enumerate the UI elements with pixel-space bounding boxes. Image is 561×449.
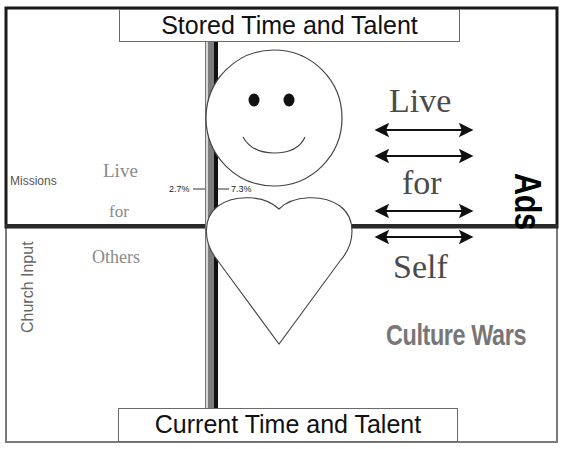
ads-label: Ads: [509, 173, 545, 230]
left-live-text: Live: [103, 160, 138, 182]
diagram-shapes: [0, 0, 561, 449]
percent-left-label: 2.7%: [169, 184, 190, 194]
church-input-label: Church Input: [19, 241, 37, 333]
right-live-text: Live: [389, 82, 451, 120]
smiley-face-icon: [206, 50, 342, 186]
double-arrow-icon: [377, 151, 471, 161]
missions-label: Missions: [10, 174, 57, 188]
culture-wars-label: Culture Wars: [386, 318, 526, 352]
heart-icon: [206, 198, 352, 344]
left-for-text: for: [109, 202, 129, 222]
diagram-canvas: Stored Time and Talent Current Time and …: [0, 0, 561, 449]
right-self-text: Self: [393, 248, 448, 286]
double-arrow-icon: [377, 206, 471, 216]
left-others-text: Others: [92, 247, 140, 268]
top-title: Stored Time and Talent: [119, 9, 460, 42]
double-arrow-icon: [377, 125, 471, 135]
double-arrow-icon: [377, 232, 471, 242]
right-for-text: for: [402, 164, 442, 202]
bottom-title: Current Time and Talent: [118, 408, 458, 442]
percent-right-label: 7.3%: [231, 184, 252, 194]
